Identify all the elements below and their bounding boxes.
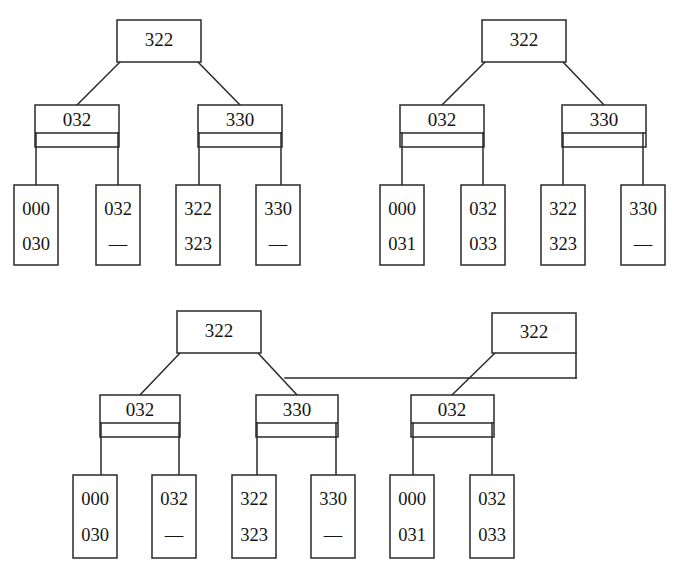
node-root-right-label: 322 <box>520 321 549 342</box>
leaf-value-upper: 322 <box>240 489 268 509</box>
edge-root-to-right-internal <box>198 62 240 105</box>
leaf-value-lower: 033 <box>469 234 497 254</box>
leaf-value-lower: 323 <box>549 234 577 254</box>
leaf-value-upper: 322 <box>549 199 577 219</box>
leaf-value-upper: 032 <box>160 489 188 509</box>
leaf-value-lower: 031 <box>398 525 426 545</box>
edge-root-to-left-internal <box>77 62 120 105</box>
node-root-left-label: 322 <box>205 320 234 341</box>
node-root-label: 322 <box>510 29 539 50</box>
node-internal-0-label: 032 <box>126 399 155 420</box>
node-root-label: 322 <box>145 29 174 50</box>
leaf-node: 032 — <box>152 475 196 558</box>
leaf-value-upper: 322 <box>184 199 212 219</box>
node-internal-2-label: 032 <box>438 399 467 420</box>
leaf-value-lower: 323 <box>184 234 212 254</box>
edge-root-to-right-internal <box>563 62 604 105</box>
edge-root-to-internal-1 <box>258 353 297 395</box>
leaf-value-lower: 033 <box>478 525 506 545</box>
leaf-node: 322 323 <box>176 185 220 265</box>
node-internal-1-label: 330 <box>283 399 312 420</box>
node-internal-left-label: 032 <box>63 109 92 130</box>
leaf-value-upper: 330 <box>629 199 657 219</box>
leaf-node: 032 033 <box>470 475 514 558</box>
leaf-node: 322 323 <box>232 475 276 558</box>
leaf-value-upper: 000 <box>398 489 426 509</box>
leaf-node: 330 — <box>621 185 665 265</box>
tree-bottom: 322 322 032 330 032 0 <box>73 311 576 558</box>
leaf-node: 000 031 <box>380 185 424 265</box>
leaf-value-lower: — <box>164 525 184 545</box>
diagram-canvas: 322 032 330 000 030 032 — <box>0 0 675 577</box>
leaf-value-lower: — <box>268 234 288 254</box>
leaf-value-upper: 000 <box>81 489 109 509</box>
leaf-node: 322 323 <box>541 185 585 265</box>
leaf-value-upper: 330 <box>264 199 292 219</box>
leaf-node: 330 — <box>256 185 300 265</box>
leaf-value-upper: 032 <box>104 199 132 219</box>
edge-root-to-left-internal <box>442 62 485 105</box>
leaf-value-lower: 030 <box>81 525 109 545</box>
leaf-value-lower: — <box>108 234 128 254</box>
leaf-value-lower: 323 <box>240 525 268 545</box>
leaf-value-upper: 032 <box>469 199 497 219</box>
leaf-node: 032 — <box>96 185 140 265</box>
leaf-value-upper: 000 <box>388 199 416 219</box>
leaf-value-lower: 030 <box>22 234 50 254</box>
leaf-value-lower: — <box>633 234 653 254</box>
tree-diagram-figure: 322 032 330 000 030 032 — <box>0 0 675 577</box>
leaf-value-upper: 330 <box>319 489 347 509</box>
leaf-node: 330 — <box>311 475 355 558</box>
edge-right-root-to-internal-2 <box>452 353 495 395</box>
leaf-node: 000 030 <box>73 475 117 558</box>
leaf-node: 000 030 <box>14 185 58 265</box>
leaf-node: 032 033 <box>461 185 505 265</box>
node-internal-right-label: 330 <box>226 109 255 130</box>
leaf-value-upper: 000 <box>22 199 50 219</box>
leaf-value-lower: — <box>323 525 343 545</box>
leaf-value-lower: 031 <box>388 234 416 254</box>
edge-root-to-internal-0 <box>140 353 180 395</box>
node-internal-left-label: 032 <box>428 109 457 130</box>
leaf-value-upper: 032 <box>478 489 506 509</box>
tree-top-right: 322 032 330 000 031 032 033 <box>380 20 665 265</box>
node-internal-right-label: 330 <box>590 109 619 130</box>
tree-top-left: 322 032 330 000 030 032 — <box>14 20 300 265</box>
leaf-node: 000 031 <box>390 475 434 558</box>
